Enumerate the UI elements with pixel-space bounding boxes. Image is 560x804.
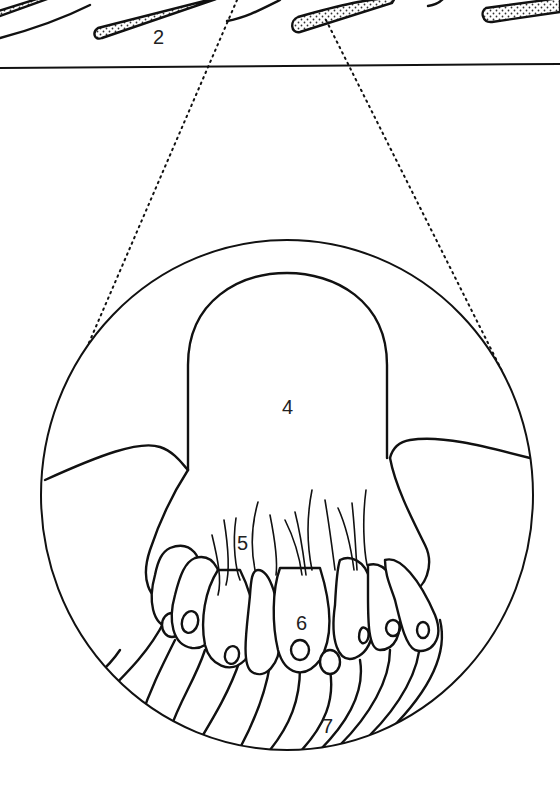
label-hair-cell: 6 — [296, 612, 307, 634]
scale-3 — [292, 0, 395, 32]
scale-4 — [483, 0, 560, 22]
neuromast-diagram: 2 4 5 6 7 — [0, 0, 560, 804]
scale-row — [0, 0, 560, 68]
divider-line — [0, 64, 560, 68]
label-cupula: 4 — [282, 396, 293, 418]
label-nerve-fibres: 7 — [322, 715, 333, 737]
label-scale: 2 — [153, 26, 164, 48]
label-hair-bundles: 5 — [237, 532, 248, 554]
magnified-view — [41, 240, 533, 752]
